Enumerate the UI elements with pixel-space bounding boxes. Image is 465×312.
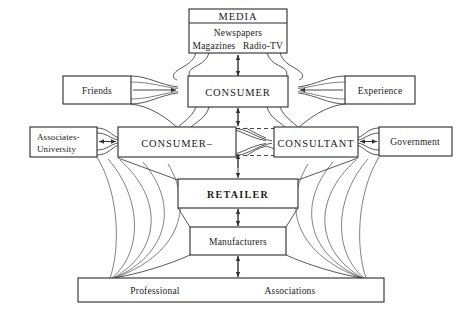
node-associations-bar[interactable]: Professional Associations bbox=[78, 278, 384, 302]
node-friends[interactable]: Friends bbox=[63, 76, 131, 104]
media-heading: MEDIA bbox=[219, 11, 258, 22]
retailer-label: RETAILER bbox=[207, 189, 269, 200]
manufacturers-label: Manufacturers bbox=[209, 237, 267, 247]
associations-left-label: Professional bbox=[130, 286, 180, 296]
friends-label: Friends bbox=[82, 86, 112, 96]
media-line-2a: Magazines bbox=[193, 41, 236, 51]
node-retailer[interactable]: RETAILER bbox=[178, 179, 298, 208]
media-line-2b: Radio-TV bbox=[243, 41, 283, 51]
network-diagram: MEDIA Newspapers Magazines Radio-TV Frie… bbox=[0, 0, 465, 312]
node-consumer-top[interactable]: CONSUMER bbox=[188, 76, 288, 107]
consumer-top-label: CONSUMER bbox=[205, 87, 271, 98]
associates-line-2: University bbox=[37, 144, 76, 154]
consumer-mid-label: CONSUMER– bbox=[141, 138, 213, 149]
experience-label: Experience bbox=[358, 86, 403, 96]
media-line-1: Newspapers bbox=[214, 28, 263, 38]
node-experience[interactable]: Experience bbox=[345, 76, 415, 104]
node-consultant[interactable]: CONSULTANT bbox=[274, 127, 358, 157]
node-associates-university[interactable]: Associates- University bbox=[30, 127, 97, 157]
associates-line-1: Associates- bbox=[37, 132, 80, 142]
consultant-label: CONSULTANT bbox=[277, 138, 354, 149]
node-government[interactable]: Government bbox=[379, 127, 452, 156]
left-fan-curves bbox=[97, 157, 180, 278]
node-media[interactable]: MEDIA Newspapers Magazines Radio-TV bbox=[189, 9, 287, 53]
associations-right-label: Associations bbox=[265, 286, 316, 296]
node-consumer-mid[interactable]: CONSUMER– bbox=[118, 127, 236, 157]
government-label: Government bbox=[390, 137, 440, 147]
diagram-canvas: MEDIA Newspapers Magazines Radio-TV Frie… bbox=[0, 0, 465, 312]
node-manufacturers[interactable]: Manufacturers bbox=[190, 227, 286, 255]
right-fan-curves bbox=[296, 157, 379, 278]
